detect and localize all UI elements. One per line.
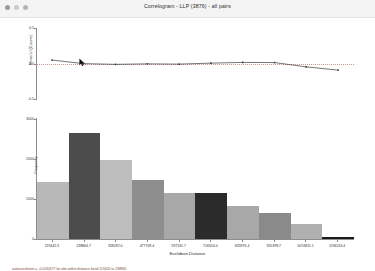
histogram-tick-mark	[34, 239, 36, 240]
x-axis-tick-label: 716554.0	[203, 244, 218, 248]
x-axis-tick-label: 835976.4	[235, 244, 250, 248]
x-axis-tick-mark	[242, 240, 243, 242]
plot-canvas[interactable]: Moran's I (Z-score) 0.5 0.0 -0.5 Frequen…	[0, 18, 375, 266]
window-titlebar: Correlogram - LLP (3876) - all pairs	[0, 0, 375, 18]
histogram-ytick-3000: 3000	[26, 117, 34, 121]
histogram-bar[interactable]	[132, 180, 164, 239]
histogram-bar[interactable]	[227, 206, 259, 239]
histogram-bar[interactable]	[322, 237, 354, 239]
x-axis-tick-mark	[337, 240, 338, 242]
correlogram-data-point[interactable]	[337, 69, 339, 71]
x-axis-tick-label: 597131.7	[171, 244, 186, 248]
correlogram-data-point[interactable]	[274, 62, 276, 64]
x-axis-tick-mark	[179, 240, 180, 242]
x-axis-tick-mark	[274, 240, 275, 242]
x-axis-tick-label: 119442.3	[45, 244, 59, 248]
x-axis-tick-label: 955398.7	[266, 244, 281, 248]
x-axis-tick-label: 238864.7	[76, 244, 91, 248]
histogram-bar[interactable]	[100, 160, 132, 240]
histogram-ytick-2000: 2000	[26, 157, 34, 161]
x-axis-tick-label: 477709.4	[140, 244, 155, 248]
x-axis-tick-mark	[305, 240, 306, 242]
histogram-bar[interactable]	[37, 182, 69, 239]
x-axis-tick-label: 1074821.1	[297, 244, 314, 248]
autocorrelation-footnote: autocorrelation = -0.0242677 for obs wit…	[12, 267, 126, 271]
correlogram-ytick-low: -0.5	[28, 97, 34, 101]
correlogram-data-point[interactable]	[178, 63, 180, 65]
histogram-ytick-1000: 1000	[26, 197, 34, 201]
histogram-tick-mark	[34, 159, 36, 160]
correlogram-data-point[interactable]	[242, 62, 244, 64]
x-axis-tick-mark	[84, 240, 85, 242]
correlogram-data-point[interactable]	[51, 59, 53, 61]
histogram-bar[interactable]	[69, 133, 101, 239]
histogram-bars	[37, 118, 354, 239]
x-axis-tick-mark	[52, 240, 53, 242]
histogram-bar[interactable]	[291, 224, 323, 239]
correlogram-data-point[interactable]	[146, 63, 148, 65]
histogram-bar[interactable]	[259, 213, 291, 239]
correlogram-y-axis-label: Moran's I (Z-score)	[29, 27, 33, 73]
x-axis-label: Euclidean Distance	[0, 251, 375, 256]
correlogram-data-point[interactable]	[210, 62, 212, 64]
correlogram-data-point[interactable]	[115, 63, 117, 65]
histogram-tick-mark	[34, 119, 36, 120]
correlogram-data-point[interactable]	[305, 66, 307, 68]
histogram-tick-mark	[34, 199, 36, 200]
histogram-bar[interactable]	[164, 193, 196, 239]
x-axis-tick-mark	[210, 240, 211, 242]
window-title: Correlogram - LLP (3876) - all pairs	[0, 3, 375, 9]
correlogram-ytick-high: 0.5	[29, 26, 34, 30]
x-axis-tick-mark	[147, 240, 148, 242]
x-axis-tick-label: 1194243.4	[329, 244, 345, 248]
correlogram-ytick-mid: 0.0	[29, 62, 34, 66]
histogram-bar[interactable]	[195, 193, 227, 239]
x-axis-tick-mark	[115, 240, 116, 242]
histogram-ytick-0: 0	[32, 237, 34, 241]
correlogram-panel: Moran's I (Z-score) 0.5 0.0 -0.5	[36, 28, 354, 100]
histogram-panel: Frequency 3000 2000 1000 0	[36, 118, 354, 240]
x-axis-tick-label: 358287.0	[108, 244, 123, 248]
mouse-cursor-icon	[79, 58, 85, 67]
